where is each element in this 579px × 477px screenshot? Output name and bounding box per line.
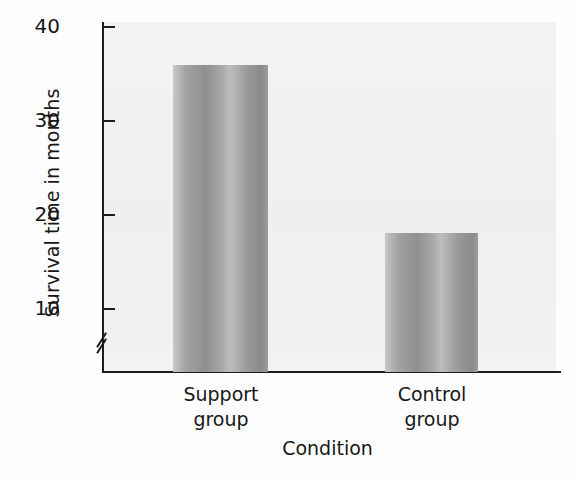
y-tick-30 (104, 120, 115, 122)
y-tick-label-40: 40 (8, 16, 60, 36)
y-axis-line (102, 22, 104, 373)
bar-support-group (173, 65, 268, 372)
x-tick-label-support-group-line2: group (136, 407, 306, 432)
x-axis-title: Condition (0, 437, 579, 459)
x-tick-label-control-group-line1: Control (347, 382, 517, 407)
plot-area (104, 22, 556, 372)
y-tick-label-30: 30 (8, 110, 60, 130)
bar-control-group (385, 233, 478, 372)
x-tick-label-support-group: Support group (136, 382, 306, 432)
y-tick-20 (104, 214, 115, 216)
y-tick-40 (104, 26, 115, 28)
y-tick-10 (104, 308, 115, 310)
y-tick-label-20: 20 (8, 204, 60, 224)
x-tick-label-control-group: Control group (347, 382, 517, 432)
axis-break-icon (92, 330, 116, 354)
x-axis-line (102, 371, 561, 373)
x-tick-label-support-group-line1: Support (136, 382, 306, 407)
y-tick-label-10: 10 (8, 298, 60, 318)
bar-chart-figure: Survival time in months 40 30 20 10 Supp… (0, 0, 579, 477)
x-tick-label-control-group-line2: group (347, 407, 517, 432)
